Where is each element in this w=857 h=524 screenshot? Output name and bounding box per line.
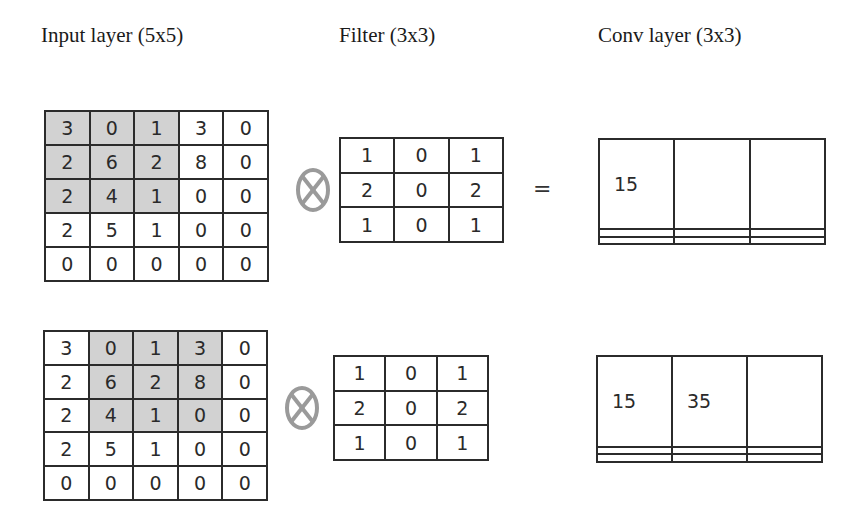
filter-cell: 2	[449, 173, 503, 208]
input-cell: 0	[222, 466, 267, 500]
input-row: 00000	[44, 466, 267, 500]
filter-cell: 1	[340, 138, 394, 173]
input-cell: 0	[44, 466, 89, 500]
conv-cell	[597, 447, 672, 455]
input-cell: 4	[90, 179, 135, 213]
input-grid-step1: 3013026280241002510000000	[44, 110, 269, 282]
input-cell: 0	[222, 432, 267, 466]
input-row: 25100	[45, 213, 268, 247]
filter-cell: 1	[334, 356, 385, 391]
input-cell: 1	[134, 111, 179, 145]
conv-row	[599, 229, 825, 237]
input-cell: 0	[223, 145, 268, 179]
convolve-operator-icon	[295, 167, 331, 213]
filter-cell: 2	[340, 173, 394, 208]
conv-layer-title: Conv layer (3x3)	[598, 23, 741, 48]
conv-cell	[750, 237, 825, 245]
input-cell: 5	[90, 213, 135, 247]
input-cell: 0	[223, 111, 268, 145]
input-cell: 0	[179, 213, 224, 247]
conv-cell	[747, 447, 822, 455]
input-cell: 6	[89, 365, 134, 399]
conv-cell	[750, 229, 825, 237]
filter-cell: 0	[394, 207, 448, 242]
conv-cell	[672, 447, 747, 455]
input-row: 00000	[45, 247, 268, 281]
input-row: 26280	[44, 365, 267, 399]
input-row: 24100	[45, 179, 268, 213]
filter-row: 101	[340, 207, 503, 242]
filter-row: 202	[340, 173, 503, 208]
conv-cell	[674, 139, 749, 229]
input-layer-title: Input layer (5x5)	[41, 23, 183, 48]
input-cell: 0	[89, 331, 134, 365]
input-cell: 2	[45, 179, 90, 213]
conv-cell	[599, 237, 674, 245]
input-cell: 1	[134, 213, 179, 247]
input-cell: 1	[133, 432, 178, 466]
convolve-operator-icon	[284, 385, 320, 431]
input-cell: 0	[179, 247, 224, 281]
filter-title: Filter (3x3)	[339, 23, 435, 48]
input-cell: 1	[133, 399, 178, 433]
input-cell: 0	[89, 466, 134, 500]
input-cell: 0	[179, 179, 224, 213]
input-cell: 0	[223, 247, 268, 281]
filter-cell: 2	[437, 391, 488, 426]
conv-cell	[674, 229, 749, 237]
input-cell: 8	[179, 145, 224, 179]
conv-cell: 35	[672, 356, 747, 447]
filter-row: 202	[334, 391, 488, 426]
input-cell: 2	[45, 213, 90, 247]
conv-cell	[674, 237, 749, 245]
filter-cell: 0	[385, 425, 436, 460]
input-cell: 2	[133, 365, 178, 399]
input-cell: 0	[134, 247, 179, 281]
input-cell: 3	[45, 111, 90, 145]
conv-row	[597, 454, 822, 462]
conv-cell: 15	[599, 139, 674, 229]
filter-cell: 1	[340, 207, 394, 242]
input-cell: 3	[44, 331, 89, 365]
filter-grid-step1: 101202101	[339, 137, 504, 243]
input-cell: 2	[45, 145, 90, 179]
input-grid-step2: 3013026280241002510000000	[43, 330, 268, 501]
input-cell: 2	[44, 399, 89, 433]
input-row: 25100	[44, 432, 267, 466]
input-cell: 3	[179, 111, 224, 145]
conv-grid-step2: 1535	[596, 355, 823, 463]
conv-row	[597, 447, 822, 455]
input-cell: 8	[178, 365, 223, 399]
input-cell: 0	[45, 247, 90, 281]
filter-cell: 1	[449, 138, 503, 173]
conv-cell: 15	[597, 356, 672, 447]
input-cell: 0	[178, 399, 223, 433]
input-cell: 6	[90, 145, 135, 179]
conv-cell	[672, 454, 747, 462]
conv-row: 15	[599, 139, 825, 229]
filter-cell: 1	[449, 207, 503, 242]
conv-grid-step1: 15	[598, 138, 826, 245]
input-cell: 0	[90, 247, 135, 281]
input-row: 24100	[44, 399, 267, 433]
input-row: 26280	[45, 145, 268, 179]
filter-cell: 2	[334, 391, 385, 426]
filter-cell: 1	[334, 425, 385, 460]
input-cell: 0	[222, 399, 267, 433]
input-cell: 0	[223, 213, 268, 247]
input-cell: 0	[222, 331, 267, 365]
filter-cell: 0	[385, 391, 436, 426]
input-cell: 0	[90, 111, 135, 145]
input-row: 30130	[45, 111, 268, 145]
conv-row	[599, 237, 825, 245]
filter-cell: 0	[385, 356, 436, 391]
filter-cell: 0	[394, 138, 448, 173]
filter-row: 101	[340, 138, 503, 173]
conv-cell	[747, 356, 822, 447]
filter-cell: 0	[394, 173, 448, 208]
input-cell: 3	[178, 331, 223, 365]
filter-row: 101	[334, 356, 488, 391]
filter-grid-step2: 101202101	[333, 355, 489, 461]
filter-cell: 1	[437, 356, 488, 391]
conv-cell	[597, 454, 672, 462]
